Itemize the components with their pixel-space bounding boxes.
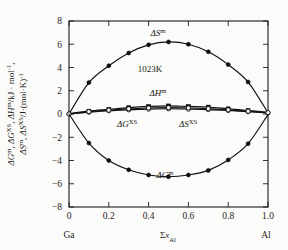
chart-page: 86420−2−4−6−8 00.20.40.60.81.0 ΔGm, ΔGXS… bbox=[0, 0, 288, 250]
x-tick-label: 0.8 bbox=[222, 211, 234, 221]
y-tick-label: −2 bbox=[52, 133, 62, 143]
y-tick-label: 4 bbox=[57, 63, 62, 73]
x-tick-label: 1.0 bbox=[262, 211, 274, 221]
data-point bbox=[87, 81, 91, 85]
x-tick-label: 0.2 bbox=[103, 211, 115, 221]
data-point bbox=[147, 173, 151, 177]
data-point bbox=[246, 142, 250, 146]
y-tick-label: 6 bbox=[57, 40, 62, 50]
data-point bbox=[107, 159, 111, 163]
data-point bbox=[147, 106, 151, 110]
data-point bbox=[107, 108, 111, 112]
y-tick-label: −4 bbox=[52, 156, 62, 166]
data-point bbox=[186, 173, 190, 177]
data-point bbox=[206, 168, 210, 172]
data-point bbox=[107, 64, 111, 68]
data-point bbox=[226, 63, 230, 67]
x-tick-label: 0.4 bbox=[143, 211, 155, 221]
data-point bbox=[127, 107, 131, 111]
data-point bbox=[226, 108, 230, 112]
data-point bbox=[186, 106, 190, 110]
thermodynamic-mixing-chart: 86420−2−4−6−8 00.20.40.60.81.0 ΔGm, ΔGXS… bbox=[0, 0, 288, 250]
data-point bbox=[87, 110, 91, 114]
data-point bbox=[166, 106, 170, 110]
temperature-annotation: 1023K bbox=[138, 64, 163, 74]
data-point bbox=[186, 42, 190, 46]
data-point bbox=[147, 43, 151, 47]
data-point bbox=[167, 40, 171, 44]
y-tick-label: −6 bbox=[52, 179, 62, 189]
data-point bbox=[87, 141, 91, 145]
data-point bbox=[206, 50, 210, 54]
y-tick-label: 0 bbox=[57, 109, 62, 119]
right-endmember-label: Al bbox=[261, 230, 271, 240]
x-tick-label: 0 bbox=[67, 211, 72, 221]
left-endmember-label: Ga bbox=[63, 230, 75, 240]
data-point bbox=[127, 168, 131, 172]
data-point bbox=[246, 80, 250, 84]
data-point bbox=[127, 51, 131, 55]
y-tick-label: 2 bbox=[57, 86, 62, 96]
data-point bbox=[226, 158, 230, 162]
y-tick-label: −8 bbox=[52, 202, 62, 212]
x-tick-label: 0.6 bbox=[182, 211, 194, 221]
y-tick-label: 8 bbox=[57, 16, 62, 26]
data-point bbox=[246, 109, 250, 113]
data-point bbox=[206, 107, 210, 111]
